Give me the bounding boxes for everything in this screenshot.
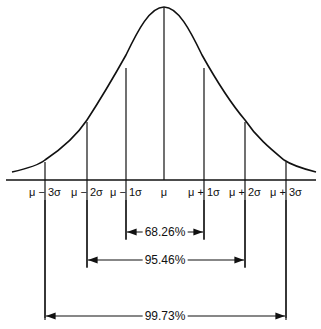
axis-label-minus-3-sigma: μ − 3σ	[29, 186, 61, 198]
interval-99-label: 99.73%	[143, 309, 188, 323]
interval-68-label: 68.26%	[143, 225, 188, 239]
normal-curve-figure	[0, 0, 321, 329]
axis-label-minus-2-sigma: μ − 2σ	[71, 186, 103, 198]
interval-95-label: 95.46%	[143, 253, 188, 267]
axis-label-mean: μ	[161, 186, 167, 198]
axis-label-plus-3-sigma: μ + 3σ	[270, 186, 302, 198]
axis-label-minus-1-sigma: μ − 1σ	[110, 186, 142, 198]
axis-label-plus-2-sigma: μ + 2σ	[229, 186, 261, 198]
axis-label-plus-1-sigma: μ + 1σ	[188, 186, 220, 198]
